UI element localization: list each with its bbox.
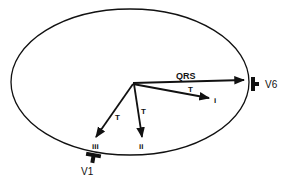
t-label-iii: T: [115, 113, 120, 122]
vector-diagram: QRS T i T ii T iii V6 V1: [0, 0, 296, 189]
t-label-i: T: [188, 85, 193, 94]
t-vector-ii: T ii: [134, 84, 146, 151]
v1-label: V1: [81, 166, 94, 177]
v1-electrode-icon: [86, 152, 101, 163]
t-vector-i: T i: [133, 84, 216, 105]
t-label-ii: T: [141, 107, 146, 116]
qrs-label: QRS: [176, 71, 196, 81]
end-label-iii: iii: [92, 142, 99, 151]
loop-ellipse: [11, 9, 249, 155]
qrs-vector: QRS: [133, 71, 244, 83]
end-label-ii: ii: [139, 142, 143, 151]
v6-electrode-icon: [251, 77, 259, 91]
v6-label: V6: [265, 79, 278, 90]
t-vector-iii: T iii: [92, 84, 133, 151]
end-label-i: i: [214, 96, 216, 105]
